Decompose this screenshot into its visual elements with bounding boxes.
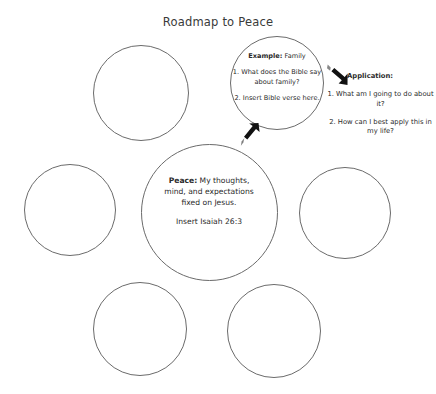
- application-item-2: 2. How can I best apply this in my life?: [325, 118, 436, 138]
- example-item-2: 2. Insert Bible verse here.: [230, 94, 324, 103]
- peace-circle-text: Peace: My thoughts, mind, and expectatio…: [141, 176, 277, 228]
- blank-circle-bottom-right[interactable]: [227, 284, 321, 378]
- application-heading: Application:: [347, 72, 436, 82]
- example-circle-text: Example: Family 1. What does the Bible s…: [230, 52, 324, 103]
- blank-circle-middle-right[interactable]: [299, 167, 391, 259]
- application-item-1: 1. What am I going to do about it?: [325, 90, 436, 110]
- example-label-rest: Family: [282, 52, 305, 60]
- arrow-up-right-icon: [239, 120, 265, 148]
- spacer: [325, 110, 436, 118]
- blank-circle-top-left[interactable]: [93, 45, 189, 141]
- peace-line-1-rest: My thoughts,: [197, 176, 249, 185]
- peace-line-3: fixed on Jesus.: [141, 198, 277, 209]
- spacer: [230, 87, 324, 94]
- worksheet-canvas: Roadmap to Peace Example: Family 1. What…: [0, 0, 436, 394]
- spacer: [325, 82, 436, 90]
- example-label: Example: Family: [230, 52, 324, 61]
- blank-circle-middle-left[interactable]: [24, 164, 116, 256]
- peace-scripture: Insert Isaiah 26:3: [141, 217, 277, 228]
- peace-line-1: Peace: My thoughts,: [141, 176, 277, 187]
- peace-label-bold: Peace:: [169, 176, 198, 185]
- page-title: Roadmap to Peace: [0, 15, 436, 29]
- spacer: [141, 208, 277, 217]
- peace-line-2: mind, and expectations: [141, 187, 277, 198]
- example-label-bold: Example:: [248, 52, 282, 60]
- application-block: Application: 1. What am I going to do ab…: [325, 72, 436, 137]
- blank-circle-bottom-left[interactable]: [93, 282, 187, 376]
- spacer: [230, 61, 324, 68]
- example-item-1: 1. What does the Bible say about family?: [230, 68, 324, 87]
